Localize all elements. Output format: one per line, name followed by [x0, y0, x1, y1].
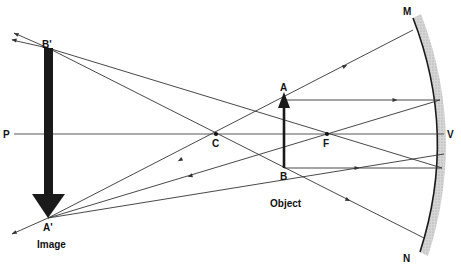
- center-of-curvature-point: [214, 132, 218, 136]
- ray-arrow: [342, 65, 347, 69]
- ray-arrow: [14, 33, 19, 37]
- image-arrow-shaft: [44, 48, 53, 196]
- label-F: F: [323, 138, 329, 149]
- label-M: M: [403, 6, 411, 17]
- ray-arrow: [12, 230, 17, 234]
- label-N: N: [403, 253, 410, 264]
- label-A: A: [280, 82, 287, 93]
- focal-point: [325, 132, 329, 136]
- ray-arrow: [393, 98, 398, 102]
- ray-B-reflected-through-F: [48, 48, 442, 168]
- label-V: V: [447, 129, 454, 140]
- label-C: C: [212, 138, 219, 149]
- ray-B-through-C: [48, 48, 424, 238]
- image-caption: Image: [37, 239, 66, 250]
- ray-A-reflected-through-F: [48, 100, 440, 218]
- concave-mirror-diagram: P C F V M N A B A' B' Object Image: [0, 0, 461, 265]
- label-A-prime: A': [43, 222, 53, 233]
- object-caption: Object: [270, 198, 302, 209]
- ray-arrow: [178, 157, 183, 161]
- ray-arrow: [345, 197, 350, 201]
- label-B: B: [280, 171, 287, 182]
- label-B-prime: B': [42, 39, 52, 50]
- ray-C-reflected: [48, 154, 444, 218]
- label-P: P: [3, 129, 10, 140]
- ray-A-through-C: [48, 30, 413, 218]
